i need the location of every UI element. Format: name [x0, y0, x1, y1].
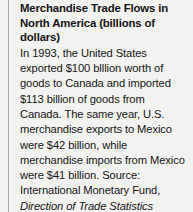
- figure-caption-body: In 1993, the United States exported $100…: [20, 45, 188, 212]
- left-margin-rule: [8, 0, 9, 212]
- caption-page: Merchandise Trade Flows in North America…: [0, 0, 193, 212]
- caption-body-text-before-citation: In 1993, the United States exported $100…: [20, 47, 185, 197]
- caption-content: Merchandise Trade Flows in North America…: [20, 0, 188, 212]
- citation-title-italic: Direction of Trade Statistics Yearbook,: [20, 200, 153, 212]
- figure-caption-title: Merchandise Trade Flows in North America…: [20, 0, 188, 45]
